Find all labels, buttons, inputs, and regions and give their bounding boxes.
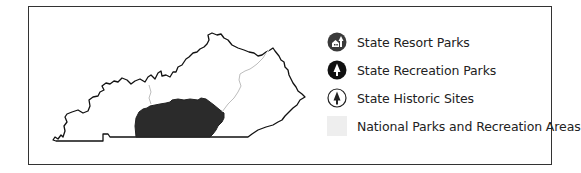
legend-item-resort-parks: State Resort Parks: [327, 31, 470, 53]
historic-site-icon: [327, 88, 347, 108]
legend-item-historic-sites: State Historic Sites: [327, 87, 474, 109]
national-park-swatch: [327, 116, 347, 136]
legend-item-national-parks: National Parks and Recreation Areas: [327, 115, 581, 137]
resort-park-icon: [327, 32, 347, 52]
legend-label: State Recreation Parks: [357, 63, 496, 78]
legend-label: State Historic Sites: [357, 91, 474, 106]
legend-label: State Resort Parks: [357, 35, 470, 50]
recreation-park-icon: [327, 60, 347, 80]
legend-item-recreation-parks: State Recreation Parks: [327, 59, 496, 81]
legend-label: National Parks and Recreation Areas: [357, 119, 581, 134]
